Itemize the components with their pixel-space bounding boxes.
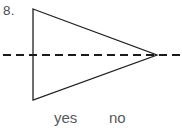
answer-option-yes[interactable]: yes	[54, 109, 77, 127]
answer-option-no[interactable]: no	[109, 109, 126, 127]
label-layer: 8. yes no	[0, 0, 182, 132]
question-number-label: 8.	[3, 3, 15, 19]
worksheet-question-figure: 8. yes no	[0, 0, 182, 132]
